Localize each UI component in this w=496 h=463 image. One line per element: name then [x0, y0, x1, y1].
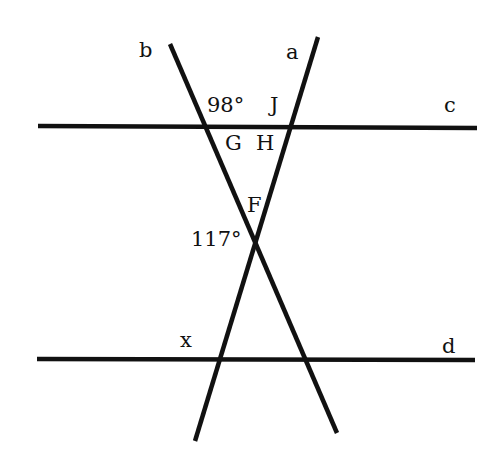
- line-d: [37, 359, 475, 360]
- angle-x-label: x: [180, 328, 192, 352]
- label-point-J: J: [268, 93, 278, 117]
- label-point-H: H: [256, 131, 274, 155]
- label-line-c: c: [444, 93, 456, 117]
- line-c: [38, 126, 477, 128]
- label-point-G: G: [225, 131, 242, 155]
- geometry-diagram: b a c d 98° J G H F 117° x: [0, 0, 496, 463]
- label-line-b: b: [139, 38, 152, 62]
- label-line-a: a: [286, 40, 299, 64]
- angle-98-label: 98°: [207, 93, 244, 117]
- label-line-d: d: [442, 334, 455, 358]
- angle-117-label: 117°: [191, 227, 242, 251]
- label-point-F: F: [247, 193, 262, 217]
